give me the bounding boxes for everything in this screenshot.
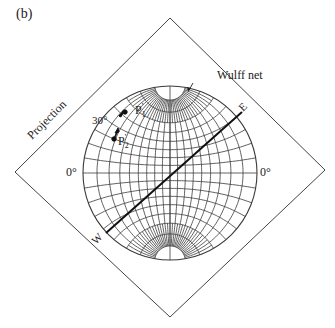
wulff-net xyxy=(83,86,257,260)
projection-label: Projection xyxy=(24,97,69,142)
right-angle-label: 0° xyxy=(260,165,271,179)
wulff-net-diagram: Wulff net Projection 0° 0° 30° P1' P2' W… xyxy=(0,0,335,328)
left-angle-label: 0° xyxy=(66,165,77,179)
east-label: E xyxy=(236,100,249,113)
net-label: Wulff net xyxy=(217,68,263,82)
great-circle-trace xyxy=(106,112,242,233)
angle-30-label: 30° xyxy=(92,114,107,126)
